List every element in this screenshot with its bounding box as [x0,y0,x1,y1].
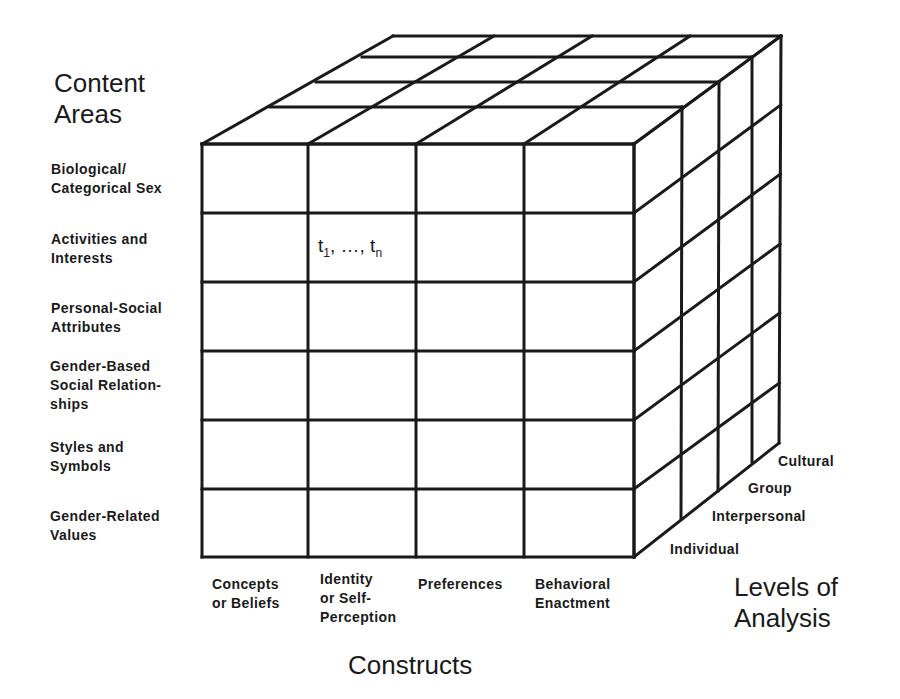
level-label-cultural: Cultural [778,452,834,471]
top-receding-line [416,36,592,144]
level-label-interpersonal: Interpersonal [712,507,806,526]
construct-label-identity: Identity or Self- Perception [320,570,396,627]
right-vertical-line [718,82,719,491]
time-series-annotation: t1, …, tn [318,235,382,260]
content-constructs-levels-cube-diagram: Content Areas Biological/ Categorical Se… [0,0,900,699]
construct-label-concepts: Concepts or Beliefs [212,575,280,613]
right-vertical-line [681,107,682,519]
right-receding-line [634,36,781,144]
content-area-label-styles-symbols: Styles and Symbols [50,438,124,476]
content-area-label-personal-social: Personal-Social Attributes [51,299,162,337]
content-area-label-activities: Activities and Interests [51,230,148,268]
top-receding-line [308,36,494,144]
level-label-individual: Individual [670,540,739,559]
content-area-label-gender-based-relationships: Gender-Based Social Relation- ships [50,357,161,414]
right-receding-line [634,383,779,489]
content-area-label-biological: Biological/ Categorical Sex [51,160,162,198]
construct-label-preferences: Preferences [418,575,503,594]
top-receding-line [202,36,393,144]
content-areas-title: Content Areas [54,68,145,130]
content-area-label-gender-related-values: Gender-Related Values [50,507,160,545]
right-receding-line [634,105,781,213]
right-receding-line [634,174,780,282]
level-label-group: Group [748,479,792,498]
constructs-title: Constructs [348,650,472,681]
construct-label-behavioral: Behavioral Enactment [535,575,611,613]
levels-of-analysis-title: Levels of Analysis [734,572,838,634]
right-receding-line [634,313,780,420]
top-receding-line [524,36,690,144]
right-receding-line [634,244,780,351]
